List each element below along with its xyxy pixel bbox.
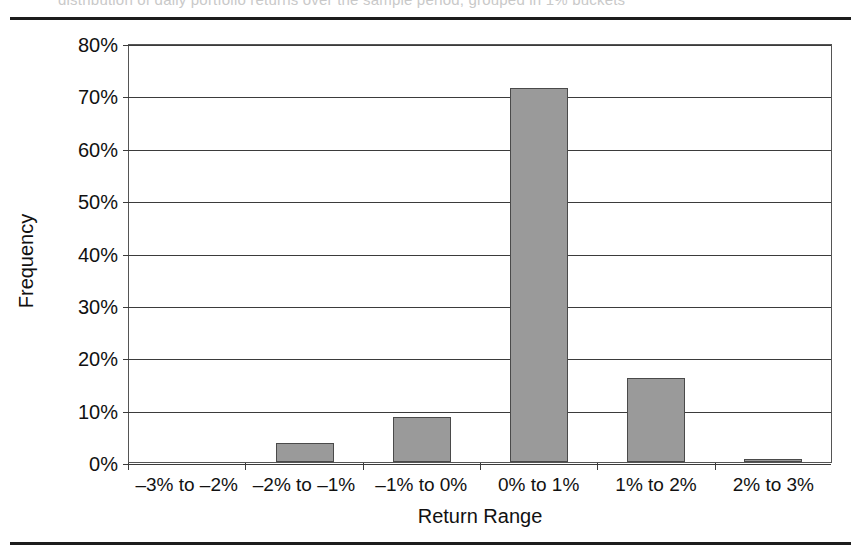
x-tick-label: –3% to –2%: [128, 474, 245, 496]
y-tick-label: 40%: [78, 244, 118, 267]
x-tick-slot: [363, 463, 480, 471]
figure-rule-bottom: [10, 542, 851, 545]
bar-slot: [363, 45, 480, 462]
bar: [393, 417, 451, 462]
x-tick-mark: [363, 463, 364, 470]
x-axis-tick-labels: –3% to –2%–2% to –1%–1% to 0%0% to 1%1% …: [128, 474, 832, 496]
bar: [627, 378, 685, 462]
figure-rule-top: [10, 17, 851, 20]
bar: [510, 88, 568, 462]
x-tick-mark: [715, 463, 716, 470]
bar-slot: [480, 45, 597, 462]
y-tick-label: 70%: [78, 86, 118, 109]
x-tick-slot: [715, 463, 832, 471]
x-axis-ticks: [128, 463, 832, 471]
x-tick-mark: [480, 463, 481, 470]
x-tick-label: 1% to 2%: [597, 474, 714, 496]
bar: [276, 443, 334, 462]
x-tick-mark: [128, 463, 129, 470]
bar-slot: [246, 45, 363, 462]
bar-slot: [714, 45, 831, 462]
bar-series: [129, 45, 831, 462]
y-tick-label: 20%: [78, 348, 118, 371]
bar-slot: [129, 45, 246, 462]
x-axis-title: Return Range: [128, 505, 832, 528]
y-tick-label: 10%: [78, 401, 118, 424]
x-tick-slot: [480, 463, 597, 471]
x-tick-label: –1% to 0%: [363, 474, 480, 496]
bar-slot: [597, 45, 714, 462]
x-tick-label: 2% to 3%: [715, 474, 832, 496]
x-tick-label: –2% to –1%: [245, 474, 362, 496]
bar: [744, 459, 802, 462]
y-tick-label: 50%: [78, 191, 118, 214]
y-tick-label: 80%: [78, 34, 118, 57]
figure-caption-sliver: distribution of daily portfolio returns …: [58, 0, 818, 9]
y-axis-title: Frequency: [15, 214, 38, 309]
x-tick-mark: [245, 463, 246, 470]
x-tick-slot: [597, 463, 714, 471]
y-tick-label: 60%: [78, 139, 118, 162]
x-tick-mark: [597, 463, 598, 470]
x-tick-label: 0% to 1%: [480, 474, 597, 496]
plot-area: 0%10%20%30%40%50%60%70%80%: [128, 44, 832, 463]
y-tick-label: 30%: [78, 296, 118, 319]
figure-container: distribution of daily portfolio returns …: [0, 0, 861, 558]
y-tick-label: 0%: [89, 453, 118, 476]
x-tick-slot: [245, 463, 362, 471]
x-tick-slot: [128, 463, 245, 471]
